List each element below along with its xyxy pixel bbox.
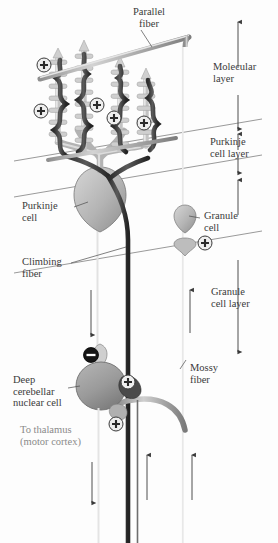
label-deep-cerebellar-nuclear-cell: Deep cerebellar nuclear cell <box>13 374 79 409</box>
cerebellar-circuit-figure: Parallel fiber Molecular layer Purkinje … <box>0 0 278 543</box>
synapse-minus <box>84 348 99 363</box>
synapse-plus <box>137 116 151 130</box>
label-molecular-layer: Molecular layer <box>213 61 277 84</box>
label-mossy-fiber: Mossy fiber <box>190 362 244 385</box>
label-parallel-fiber: Parallel fiber <box>118 6 180 29</box>
label-granule-cell-layer: Granule cell layer <box>211 286 277 309</box>
synapse-plus <box>34 104 48 118</box>
synapse-plus <box>37 58 51 72</box>
label-purkinje-cell-layer: Purkinje cell layer <box>210 136 278 159</box>
label-to-thalamus: To thalamus (motor cortex) <box>20 424 116 447</box>
synapse-plus <box>121 375 135 389</box>
synapse-plus <box>90 98 104 112</box>
label-purkinje-cell: Purkinje cell <box>22 200 78 223</box>
label-climbing-fiber: Climbing fiber <box>22 256 82 279</box>
label-granule-cell: Granule cell <box>204 210 264 233</box>
synapse-plus <box>107 111 121 125</box>
inhibitory-synapse-markers <box>84 348 99 363</box>
synapse-plus <box>198 236 212 250</box>
